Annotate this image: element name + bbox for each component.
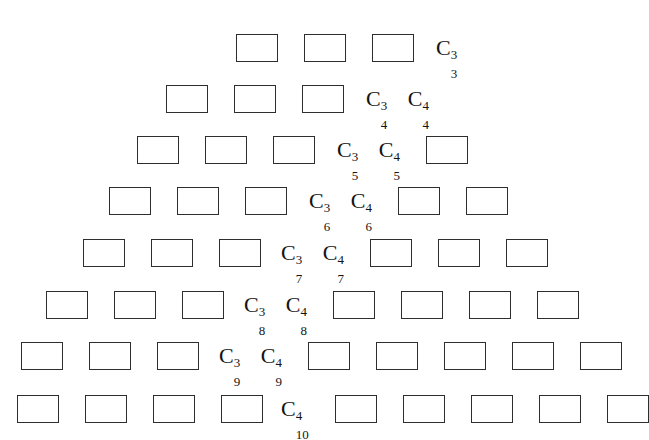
binomial-superscript: 3 [234,356,241,369]
binomial-coefficient-label: C46 [351,190,393,212]
cell-box[interactable] [273,136,315,164]
pyramid-row: C37C47 [83,231,548,275]
binomial-coefficient-label: C44 [408,88,450,110]
cell-box[interactable] [444,342,486,370]
cell-box[interactable] [46,291,88,319]
binomial-base-letter: C [281,240,296,265]
cell-box[interactable] [471,395,513,423]
binomial-coefficient-label: C49 [261,345,303,367]
binomial-superscript: 3 [352,150,359,163]
clipped-caption-text: — 一 一 一 一 一 一 一 一 一 一 一 一 一 一 一 一 一 一 一 … [6,0,441,2]
cell-box[interactable] [333,291,375,319]
pyramid-row: C39C49 [21,334,622,378]
cell-box[interactable] [370,239,412,267]
cell-box[interactable] [308,342,350,370]
binomial-base-letter: C [309,188,324,213]
binomial-coefficient-label: C34 [366,88,408,110]
cell-box[interactable] [151,239,193,267]
binomial-coefficient-label: C39 [219,345,261,367]
binomial-coefficient-label: C36 [309,190,351,212]
pyramid-row: C34C44 [166,77,449,121]
cell-box[interactable] [157,342,199,370]
cell-box[interactable] [236,34,278,62]
binomial-base-letter: C [408,86,423,111]
cell-box[interactable] [401,291,443,319]
binomial-base-letter: C [379,137,394,162]
cell-box[interactable] [469,291,511,319]
binomial-coefficient-label: C45 [379,139,421,161]
binomial-base-letter: C [219,343,234,368]
cell-box[interactable] [398,187,440,215]
binomial-superscript: 4 [393,150,400,163]
cell-box[interactable] [153,395,195,423]
binomial-coefficient-label: C35 [337,139,379,161]
binomial-superscript: 3 [451,48,458,61]
binomial-coefficient-label: C48 [286,294,328,316]
binomial-coefficient-label: C410 [281,398,329,420]
cell-box[interactable] [304,34,346,62]
pyramid-row: C38C48 [46,283,579,327]
binomial-base-letter: C [244,292,259,317]
cell-box[interactable] [512,342,554,370]
binomial-base-letter: C [261,343,276,368]
cell-box[interactable] [205,136,247,164]
cell-box[interactable] [85,395,127,423]
binomial-superscript: 4 [422,99,429,112]
cell-box[interactable] [403,395,445,423]
cell-box[interactable] [109,187,151,215]
binomial-coefficient-label: C38 [244,294,286,316]
pyramid-row: C410 [17,387,649,431]
binomial-base-letter: C [281,396,296,421]
cell-box[interactable] [177,187,219,215]
pyramid-row: C35C45 [137,128,468,172]
cell-box[interactable] [166,85,208,113]
cell-box[interactable] [426,136,468,164]
cell-box[interactable] [114,291,156,319]
cell-box[interactable] [539,395,581,423]
cell-box[interactable] [372,34,414,62]
cell-box[interactable] [466,187,508,215]
cell-box[interactable] [221,395,263,423]
binomial-coefficient-label: C33 [436,37,478,59]
binomial-subscript: 10 [296,428,309,440]
pyramid-row: C33 [236,26,478,70]
cell-box[interactable] [219,239,261,267]
cell-box[interactable] [137,136,179,164]
cell-box[interactable] [302,85,344,113]
binomial-superscript: 4 [275,356,282,369]
binomial-base-letter: C [286,292,301,317]
cell-box[interactable] [182,291,224,319]
cell-box[interactable] [438,239,480,267]
binomial-coefficient-label: C37 [281,242,323,264]
cell-box[interactable] [506,239,548,267]
binomial-coefficient-label: C47 [323,242,365,264]
binomial-base-letter: C [323,240,338,265]
clipped-caption-strip: — 一 一 一 一 一 一 一 一 一 一 一 一 一 一 一 一 一 一 一 … [0,0,640,11]
pyramid-row: C36C46 [109,179,508,223]
cell-box[interactable] [580,342,622,370]
cell-box[interactable] [376,342,418,370]
binomial-base-letter: C [436,35,451,60]
cell-box[interactable] [17,395,59,423]
binomial-superscript: 3 [259,305,266,318]
cell-box[interactable] [335,395,377,423]
binomial-superscript: 3 [381,99,388,112]
cell-box[interactable] [83,239,125,267]
binomial-superscript: 4 [337,253,344,266]
binomial-base-letter: C [351,188,366,213]
cell-box[interactable] [234,85,276,113]
binomial-superscript: 3 [296,253,303,266]
cell-box[interactable] [21,342,63,370]
cell-box[interactable] [89,342,131,370]
binomial-superscript: 4 [296,409,303,422]
binomial-base-letter: C [337,137,352,162]
binomial-base-letter: C [366,86,381,111]
binomial-superscript: 4 [365,201,372,214]
binomial-superscript: 3 [324,201,331,214]
binomial-superscript: 4 [300,305,307,318]
binomial-subscript: 3 [451,67,458,80]
cell-box[interactable] [245,187,287,215]
cell-box[interactable] [607,395,649,423]
cell-box[interactable] [537,291,579,319]
